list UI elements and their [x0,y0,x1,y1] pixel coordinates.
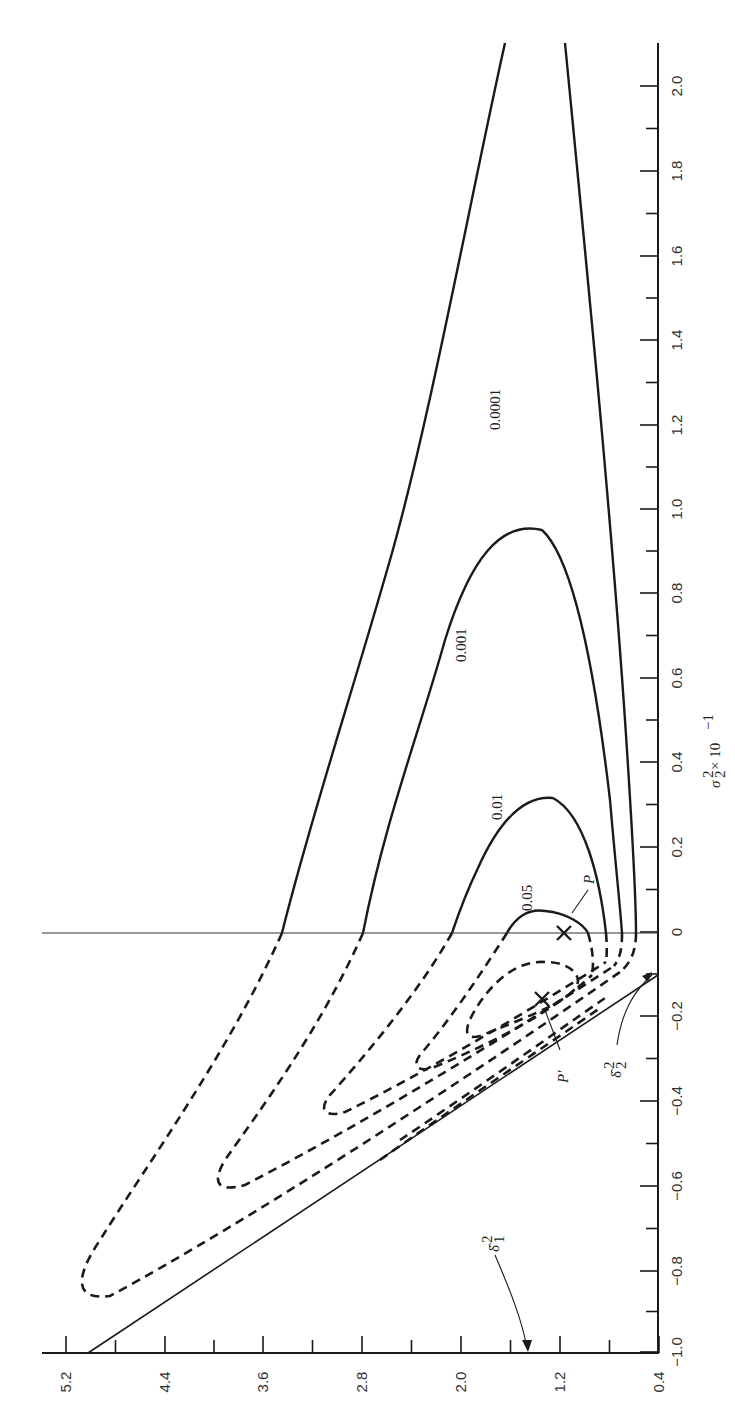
svg-text:2: 2 [712,771,728,779]
right-tick-label: −0.6 [668,1171,685,1201]
bottom-tick-label: 0.4 [650,1372,667,1393]
svg-text:−1: −1 [700,714,716,730]
right-tick-label: −0.4 [668,1086,685,1116]
right-tick-label: −0.8 [668,1256,685,1286]
contour-0.001 [218,528,622,1187]
right-tick-label: 0.6 [668,668,685,689]
right-tick-label: 0.4 [668,752,685,773]
contour-0.0001 [82,43,636,1297]
point-P-prime [535,992,560,1050]
boundary-dashed-bundle-2 [400,998,605,1140]
right-tick-label: 0.2 [668,837,685,858]
label-P: P [581,875,597,885]
boundary-line [88,975,658,1353]
right-tick-label: 0.8 [668,583,685,604]
label-0.0001: 0.0001 [487,389,503,430]
right-tick-label: 1.2 [668,415,685,436]
label-0.001: 0.001 [453,628,469,662]
right-tick-label: −0.2 [668,1001,685,1031]
label-P-prime: P′ [555,1070,571,1084]
delta1-arrowhead [522,1340,532,1352]
right-tick-label: 2.0 [668,76,685,97]
svg-text:× 10: × 10 [707,743,723,770]
axis-title-sigma2: σ 2 2 × 10 −1 [700,714,728,788]
svg-text:2: 2 [613,1062,629,1070]
delta1-arrow [495,1255,527,1348]
label-delta2: δ̂ 2 2 [601,1062,629,1079]
bottom-tick-label: 2.0 [452,1372,469,1393]
bottom-tick-label: 5.2 [57,1372,74,1393]
right-tick-label: 1.8 [668,161,685,182]
delta2-arrow [617,975,652,1045]
bottom-axis-ticks: 5.24.43.62.82.01.20.4 [57,1336,667,1392]
right-tick-label: 1.4 [668,330,685,351]
contour-0.01 [324,798,607,1114]
right-axis-ticks: 2.01.81.61.41.21.00.80.60.40.20−0.2−0.4−… [640,76,685,1367]
svg-text:1: 1 [491,1236,507,1244]
contour-chart: 2.01.81.61.41.21.00.80.60.40.20−0.2−0.4−… [0,0,735,1416]
bottom-tick-label: 2.8 [353,1372,370,1393]
label-0.01: 0.01 [489,794,505,820]
label-delta1: δ̂ 2 1 [479,1236,507,1253]
svg-text:σ: σ [707,780,723,788]
bottom-tick-label: 3.6 [254,1372,271,1393]
right-tick-label: 1.0 [668,499,685,520]
bottom-tick-label: 1.2 [551,1372,568,1393]
bottom-tick-label: 4.4 [156,1372,173,1393]
right-tick-label: 0 [668,928,685,936]
right-tick-label: 1.6 [668,246,685,267]
label-0.05: 0.05 [519,885,535,911]
right-tick-label: −1.0 [668,1337,685,1367]
